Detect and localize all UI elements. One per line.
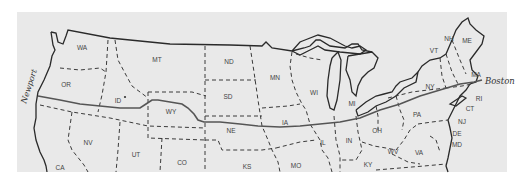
state-label-pa: PA: [413, 111, 422, 118]
state-label-wy: WY: [166, 108, 177, 115]
state-label-wi: WI: [310, 89, 318, 96]
state-label-ri: RI: [476, 95, 483, 102]
state-label-in: IN: [346, 137, 353, 144]
state-label-ky: KY: [364, 161, 373, 168]
state-label-oh: OH: [372, 127, 382, 134]
us-route-map: WAORIDMTWYNVUTCACONDSDNEKSMNIAMOWIMIILIN…: [0, 0, 523, 185]
state-label-ia: IA: [282, 119, 289, 126]
state-label-md: MD: [452, 141, 462, 148]
state-label-ny: NY: [425, 83, 435, 90]
state-label-mo: MO: [291, 162, 301, 169]
state-label-ut: UT: [132, 151, 141, 158]
state-label-de: DE: [452, 130, 462, 137]
state-label-ks: KS: [243, 163, 252, 170]
state-label-nj: NJ: [458, 118, 466, 125]
boise-dot: [124, 96, 126, 98]
state-label-sd: SD: [223, 93, 232, 100]
state-label-or: OR: [61, 81, 71, 88]
state-label-mn: MN: [270, 74, 280, 81]
state-label-ne: NE: [226, 127, 236, 134]
state-label-ct: CT: [466, 105, 475, 112]
state-label-mi: MI: [348, 100, 355, 107]
state-label-nh: NH: [444, 35, 454, 42]
state-label-ma: MA: [471, 71, 481, 78]
state-label-co: CO: [177, 159, 187, 166]
state-label-il: IL: [320, 139, 326, 146]
state-label-wa: WA: [77, 44, 88, 51]
boston-label: Boston: [484, 76, 515, 86]
state-label-vt: VT: [430, 47, 438, 54]
state-label-wv: WV: [388, 148, 399, 155]
state-label-ca: CA: [55, 164, 65, 171]
state-label-id: ID: [115, 97, 122, 104]
state-label-va: VA: [415, 149, 424, 156]
state-label-nd: ND: [224, 58, 234, 65]
state-label-mt: MT: [152, 56, 161, 63]
state-label-me: ME: [462, 37, 472, 44]
state-label-nv: NV: [83, 139, 93, 146]
